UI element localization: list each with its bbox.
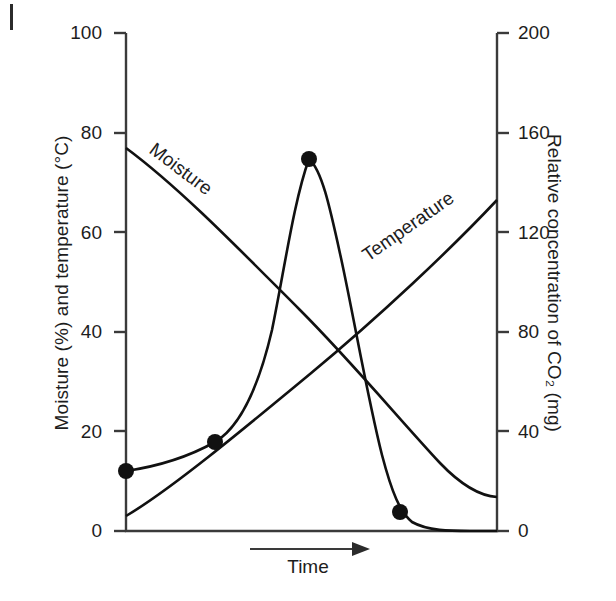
data-point	[392, 504, 408, 520]
time-arrow-icon	[250, 542, 370, 556]
x-axis-title: Time	[0, 556, 616, 578]
y-right-tickmarks	[497, 33, 509, 531]
series-temperature-curve	[126, 200, 497, 516]
plot-area: Moisture Temperature	[0, 0, 616, 601]
data-point	[207, 434, 223, 450]
curve-label-moisture: Moisture	[146, 138, 217, 199]
chart-figure: Moisture (%) and temperature (°C) Relati…	[0, 0, 616, 601]
data-point	[118, 463, 134, 479]
y-left-tickmarks	[114, 33, 126, 531]
data-point	[301, 151, 317, 167]
